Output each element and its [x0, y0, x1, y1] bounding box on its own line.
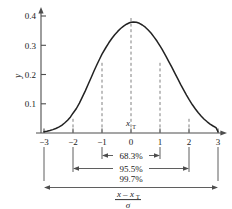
- formula-denominator-sigma: σ: [126, 200, 131, 209]
- normal-distribution-figure: 0.4 0.3 0.2 0.1 y −3 −2 −1 0 1 2 3: [0, 0, 232, 208]
- x-tick-label-0: 0: [129, 137, 134, 147]
- x-tick-label-2: 2: [187, 137, 192, 147]
- y-axis-title: y: [13, 73, 23, 79]
- y-tick-label-0.1: 0.1: [25, 99, 36, 109]
- interval-95-label: 95.5%: [119, 164, 143, 174]
- mean-label-subscript: T: [132, 124, 136, 130]
- x-tick-label-1: 1: [158, 137, 163, 147]
- x-tick-label--3: −3: [39, 137, 49, 147]
- chart-svg: 0.4 0.3 0.2 0.1 y −3 −2 −1 0 1 2 3: [0, 0, 232, 208]
- x-tick-label-3: 3: [216, 137, 221, 147]
- formula-minus-sign: –: [122, 189, 128, 199]
- x-tick-label--1: −1: [97, 137, 107, 147]
- y-tick-label-0.2: 0.2: [25, 70, 36, 80]
- formula-numerator-xt: x: [129, 189, 134, 199]
- y-tick-label-0.4: 0.4: [25, 11, 37, 21]
- y-tick-label-0.3: 0.3: [25, 41, 37, 51]
- interval-68-label: 68.3%: [119, 151, 143, 161]
- x-tick-label--2: −2: [68, 137, 78, 147]
- interval-99-label: 99.7%: [119, 174, 143, 184]
- formula-numerator-x: x: [116, 189, 121, 199]
- mean-label-main: x: [125, 118, 130, 128]
